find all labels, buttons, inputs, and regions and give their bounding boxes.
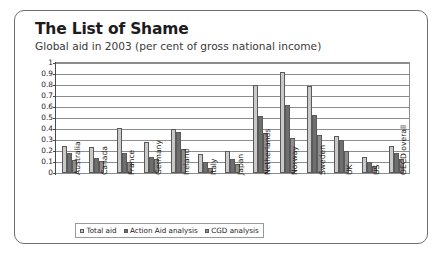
legend-label: Total aid [87, 226, 117, 235]
legend-swatch [80, 229, 84, 233]
x-axis-labels: AustraliaCanadaFranceGermanyIrelandItaly… [56, 175, 410, 221]
legend-swatch [124, 229, 128, 233]
x-tick-label: Canada [100, 146, 109, 175]
x-tick-label: Italy [209, 159, 218, 175]
x-tick-label: Japan [236, 154, 245, 175]
y-tick-label: 0.2 [31, 147, 53, 154]
legend-swatch [205, 229, 209, 233]
legend-item: CGD analysis [205, 226, 259, 235]
bar-group [192, 63, 219, 173]
x-tick-label: UK [345, 164, 354, 175]
x-tick-label: OECD overall [399, 125, 408, 175]
chart-legend: Total aidAction Aid analysisCGD analysis [75, 223, 264, 238]
x-tick-label: Netherlands [263, 129, 272, 175]
y-tick-label: 0.8 [31, 81, 53, 88]
legend-item: Total aid [80, 226, 117, 235]
x-tick-label: Ireland [182, 149, 191, 175]
legend-label: Action Aid analysis [130, 226, 198, 235]
x-tick-label: France [127, 150, 136, 175]
y-tick-label: 0.4 [31, 125, 53, 132]
y-tick-label: 1 [31, 59, 53, 66]
y-tick-label: 0 [31, 169, 53, 176]
legend-item: Action Aid analysis [124, 226, 198, 235]
y-tick-label: 0.9 [31, 70, 53, 77]
y-tick-mark [53, 173, 56, 174]
x-tick-label: Sweden [318, 145, 327, 175]
bar-group [328, 63, 355, 173]
y-tick-label: 0.3 [31, 136, 53, 143]
x-tick-label: US [372, 165, 381, 175]
y-axis-labels: 00.10.20.30.40.50.60.70.80.91 [29, 62, 53, 175]
chart-subtitle: Global aid in 2003 (per cent of gross na… [35, 40, 321, 52]
legend-label: CGD analysis [211, 226, 259, 235]
x-tick-label: Australia [73, 141, 82, 175]
chart-card: The List of Shame Global aid in 2003 (pe… [14, 10, 428, 244]
y-tick-label: 0.5 [31, 114, 53, 121]
page-title: The List of Shame [35, 20, 188, 38]
bar-group [356, 63, 383, 173]
y-tick-label: 0.7 [31, 92, 53, 99]
x-tick-label: Germany [154, 140, 163, 175]
y-tick-label: 0.6 [31, 103, 53, 110]
y-tick-label: 0.1 [31, 158, 53, 165]
x-tick-label: Norway [290, 146, 299, 175]
plot-area [56, 62, 410, 174]
